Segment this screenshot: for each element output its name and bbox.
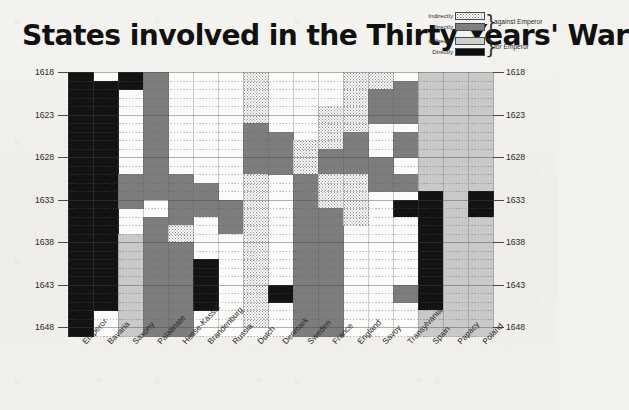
heatmap-cell <box>268 166 294 175</box>
y-axis-tick-label: 1643 <box>506 280 525 290</box>
y-axis-tick-mark <box>58 327 68 328</box>
y-axis-tick-label: 1623 <box>24 110 54 120</box>
heatmap-cell <box>393 293 419 302</box>
heatmap-cell <box>118 200 144 209</box>
legend-entry-label: Indirectly <box>424 13 455 19</box>
heatmap-cell <box>368 115 394 124</box>
y-axis-tick-mark <box>58 72 68 73</box>
y-axis-tick-mark <box>58 242 68 243</box>
y-axis-tick-label: 1648 <box>24 322 54 332</box>
legend-group-label: against Emperor <box>494 19 542 26</box>
y-axis-tick-label: 1618 <box>24 67 54 77</box>
y-axis-tick-label: 1648 <box>506 322 525 332</box>
y-axis-tick-mark <box>58 200 68 201</box>
heatmap-cell <box>393 208 419 217</box>
legend-entry-label: Directly <box>424 49 455 55</box>
y-axis-tick-mark <box>493 285 504 286</box>
legend-group-label: for Emperor <box>494 44 529 51</box>
heatmap-cell <box>393 115 419 124</box>
heatmap-cell <box>343 217 369 226</box>
y-axis-tick-label: 1638 <box>24 237 54 247</box>
legend-entry-label: indirectly <box>424 38 455 44</box>
y-axis-tick-label: 1633 <box>506 195 525 205</box>
legend: IndirectlyDirectly}against Emperorindire… <box>424 11 552 61</box>
y-axis-tick-label: 1618 <box>506 67 525 77</box>
y-axis-tick-mark <box>493 200 504 201</box>
y-axis-tick-mark <box>493 242 504 243</box>
y-axis-tick-mark <box>493 115 504 116</box>
heatmap-cell <box>268 293 294 302</box>
legend-swatch-ind-for <box>455 37 485 45</box>
y-axis-tick-label: 1633 <box>24 195 54 205</box>
y-axis-tick-mark <box>58 115 68 116</box>
legend-swatch-ind-against <box>455 12 485 20</box>
y-axis-tick-mark <box>58 285 68 286</box>
heatmap-cell <box>93 302 119 311</box>
heatmap-cell <box>143 191 169 200</box>
heatmap-cell <box>118 81 144 90</box>
heatmap-cell <box>368 183 394 192</box>
legend-swatch-dir-for <box>455 48 485 56</box>
y-axis-tick-label: 1628 <box>24 152 54 162</box>
y-axis-tick-label: 1643 <box>24 280 54 290</box>
y-axis-tick-mark <box>493 72 504 73</box>
y-axis-tick-label: 1623 <box>506 110 525 120</box>
legend-swatch-dir-against <box>455 23 485 31</box>
y-axis-tick-label: 1638 <box>506 237 525 247</box>
heatmap-cells <box>68 72 493 336</box>
plot-area <box>68 72 493 336</box>
heatmap-cell <box>393 183 419 192</box>
heatmap-cell <box>393 149 419 158</box>
y-axis-tick-label: 1628 <box>506 152 525 162</box>
legend-entry-label: Directly <box>424 24 455 30</box>
heatmap-cell <box>218 225 244 234</box>
heatmap-cell <box>193 208 219 217</box>
y-axis-tick-mark <box>58 157 68 158</box>
y-axis-tick-mark <box>493 157 504 158</box>
